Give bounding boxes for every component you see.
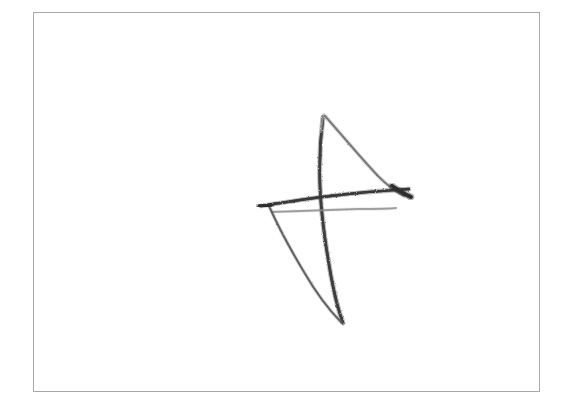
stroke-horizontal-main [261,189,409,206]
stroke-vertical-spine-grain [320,117,343,323]
stroke-horizontal-secondary [272,208,396,212]
hand-drawn-sketch [0,0,571,412]
stroke-vertical-spine [320,117,343,323]
stroke-left-tip [259,205,271,206]
stroke-left-tip-grain [259,205,271,206]
ink-stroke-layer [259,114,411,323]
screenshot-canvas [0,0,571,412]
